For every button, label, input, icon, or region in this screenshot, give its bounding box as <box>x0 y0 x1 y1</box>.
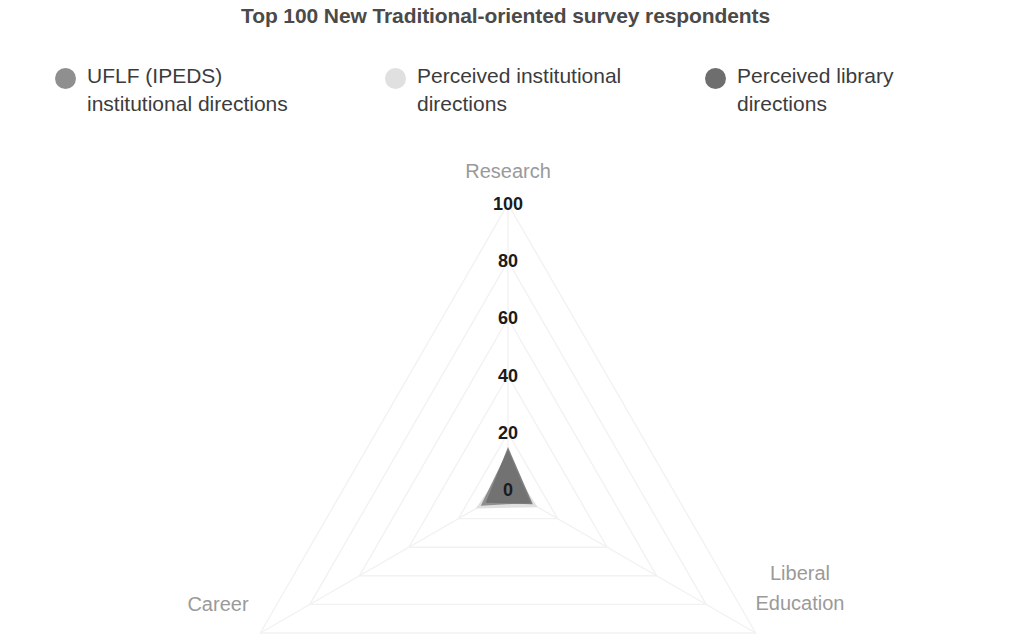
radial-tick-label-20: 20 <box>498 423 518 443</box>
grid-spoke-career <box>260 490 508 633</box>
grid-spoke-liberal-education <box>508 490 756 633</box>
radar-plot-area: ResearchLiberalEducationCareer1008060402… <box>0 0 1011 639</box>
radial-tick-label-80: 80 <box>498 251 518 271</box>
radial-tick-label-0: 0 <box>503 480 513 500</box>
axis-label-liberal-education-line-2: Education <box>756 592 845 614</box>
radial-tick-label-60: 60 <box>498 308 518 328</box>
axis-label-career: Career <box>187 593 248 615</box>
radial-tick-label-40: 40 <box>498 366 518 386</box>
radar-chart-figure: Top 100 New Traditional-oriented survey … <box>0 0 1011 639</box>
axis-label-research: Research <box>465 160 551 182</box>
axis-label-liberal-education-line-1: Liberal <box>770 562 830 584</box>
radial-tick-label-100: 100 <box>493 194 523 214</box>
